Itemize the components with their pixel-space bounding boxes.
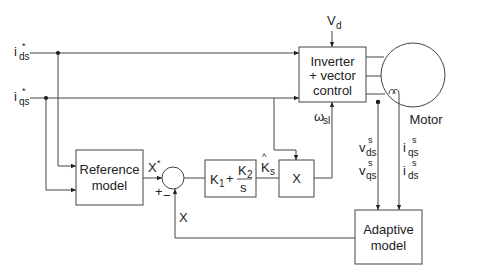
svg-text:*: * [22,86,26,96]
svg-text:*: * [157,158,161,168]
svg-text:2: 2 [247,169,253,180]
svg-text:s: s [240,180,247,195]
x-feedback-label: X [179,210,188,225]
summing-junction [162,167,184,189]
svg-text:ds: ds [19,51,30,62]
iqs-to-multiplier-line [274,98,296,160]
ks-hat-label: ^ K s [261,152,275,177]
svg-text:v: v [359,163,366,178]
svg-text:sl: sl [323,115,330,126]
sum-minus-sign: − [163,188,171,203]
svg-text:*: * [22,41,26,51]
svg-text:+: + [226,171,234,186]
multiplier-block: X [279,160,314,197]
svg-text:qs: qs [408,147,419,158]
svg-text:qs: qs [366,170,377,181]
vqs-s-label: v qs s [359,158,377,181]
x-feedback-line [175,189,355,238]
svg-text:model: model [92,178,128,193]
ids-to-reference-line [58,53,76,166]
svg-text:X: X [292,171,301,186]
svg-text:d: d [336,20,342,31]
x-star-label: X * [148,158,161,175]
svg-text:i: i [403,140,406,155]
svg-text:i: i [14,89,17,104]
svg-text:i: i [403,163,406,178]
reference-model-block: Reference model [76,150,143,205]
inverter-vector-control-block: Inverter + vector control [299,47,366,102]
svg-text:control: control [313,83,352,98]
omega-sl-label: ω sl [314,109,330,126]
svg-text:K: K [210,172,219,187]
svg-text:X: X [148,160,157,175]
svg-text:s: s [270,166,275,177]
adaptive-model-block: Adaptive model [355,210,422,264]
svg-text:V: V [327,13,336,28]
svg-text:ds: ds [366,147,377,158]
input-ids-star-label: i ds * [14,41,30,62]
svg-text:1: 1 [219,178,225,189]
svg-text:s: s [368,158,373,168]
svg-text:i: i [14,44,17,59]
svg-text:Adaptive: Adaptive [363,222,414,237]
mras-control-diagram: i ds * i qs * V d Inverter + vector cont… [0,0,485,273]
svg-text:s: s [368,135,373,145]
svg-text:Inverter: Inverter [310,54,355,69]
svg-text:ds: ds [408,170,419,181]
ids-s-label: i ds s [403,158,419,181]
motor-icon [381,43,445,107]
motor-label: Motor [409,112,443,127]
svg-text:K: K [238,163,247,178]
iqs-s-label: i qs s [403,135,419,158]
svg-text:s: s [412,135,417,145]
vds-s-label: v ds s [359,135,377,158]
svg-text:v: v [359,140,366,155]
svg-text:model: model [371,238,407,253]
svg-text:Reference: Reference [80,162,140,177]
svg-text:s: s [412,158,417,168]
svg-text:qs: qs [19,96,30,107]
sum-plus-sign: + [155,184,163,199]
svg-text:K: K [261,160,270,175]
svg-text:+ vector: + vector [309,68,356,83]
vd-label: V d [327,13,342,31]
input-iqs-star-label: i qs * [14,86,30,107]
iqs-to-reference-line [46,98,76,190]
pi-controller-block: K 1 + K 2 s [205,160,256,197]
